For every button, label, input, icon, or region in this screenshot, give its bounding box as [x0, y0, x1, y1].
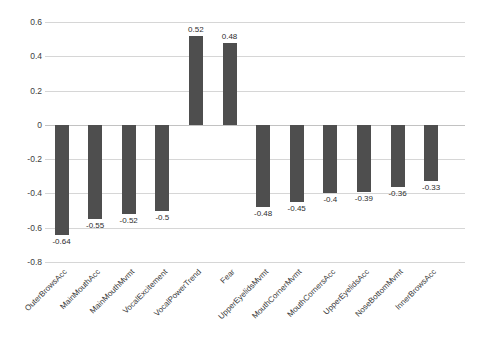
bar-value-label: -0.64 — [52, 237, 70, 246]
bar-value-label: 0.52 — [188, 25, 204, 34]
bar-value-label: -0.52 — [120, 216, 138, 225]
bar[interactable] — [256, 125, 270, 207]
x-tick-label: Fear — [219, 267, 237, 285]
bar-value-label: -0.48 — [254, 209, 272, 218]
bar[interactable] — [323, 125, 337, 194]
bar[interactable] — [223, 43, 237, 125]
bar-value-label: -0.36 — [388, 189, 406, 198]
y-tick-label: -0.4 — [8, 188, 42, 198]
y-tick-label: 0.2 — [8, 86, 42, 96]
bar[interactable] — [290, 125, 304, 202]
y-tick-label: -0.2 — [8, 154, 42, 164]
bar-chart: 0.6 0.4 0.2 0 -0.2 -0.4 -0.6 -0.8 -0.64-… — [0, 0, 480, 338]
bar-value-label: 0.48 — [222, 32, 238, 41]
bar[interactable] — [189, 36, 203, 125]
bar-value-label: -0.55 — [86, 221, 104, 230]
y-tick-label: -0.6 — [8, 223, 42, 233]
bar[interactable] — [424, 125, 438, 182]
y-tick-label: -0.8 — [8, 257, 42, 267]
gridline — [45, 228, 465, 229]
y-tick-label: 0.6 — [8, 17, 42, 27]
gridline — [45, 91, 465, 92]
bar-value-label: -0.33 — [422, 183, 440, 192]
y-tick-label: 0.4 — [8, 51, 42, 61]
plot-area — [45, 22, 465, 262]
gridline — [45, 262, 465, 263]
gridline — [45, 22, 465, 23]
bar-value-label: -0.45 — [288, 204, 306, 213]
gridline — [45, 56, 465, 57]
bar-value-label: -0.4 — [323, 195, 337, 204]
bar[interactable] — [88, 125, 102, 219]
bar[interactable] — [391, 125, 405, 187]
bar[interactable] — [122, 125, 136, 214]
bar-value-label: -0.39 — [355, 194, 373, 203]
y-tick-label: 0 — [8, 120, 42, 130]
bar[interactable] — [357, 125, 371, 192]
bar[interactable] — [155, 125, 169, 211]
bar[interactable] — [55, 125, 69, 235]
bar-value-label: -0.5 — [155, 213, 169, 222]
